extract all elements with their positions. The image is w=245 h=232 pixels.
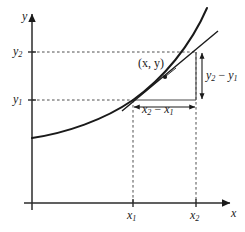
rise-label-trail-sub: 1 <box>234 74 238 83</box>
rise-label-operator: − <box>215 68 228 82</box>
secant-line <box>122 31 218 111</box>
run-label-operator: − <box>151 102 164 116</box>
tick-label-x1-sub: 1 <box>132 214 136 223</box>
run-label: x2 − x1 <box>142 103 174 117</box>
tick-label-x2-sub: 2 <box>195 214 199 223</box>
tick-label-x1: x1 <box>127 209 136 223</box>
tick-label-y1-sub: 1 <box>18 98 22 107</box>
function-curve <box>32 8 207 138</box>
tick-label-x2: x2 <box>190 209 199 223</box>
tick-label-y2: y2 <box>13 45 22 59</box>
point-coordinate-label: (x, y) <box>138 57 164 69</box>
graph-figure: y x y2 y1 x1 x2 (x, y) y2 − y1 x2 − x1 <box>0 0 245 232</box>
graph-canvas <box>0 0 245 232</box>
x-axis-label: x <box>231 207 236 219</box>
y-axis-label: y <box>22 10 27 22</box>
tick-label-y2-sub: 2 <box>18 50 22 59</box>
tick-label-y1: y1 <box>13 93 22 107</box>
rise-label: y2 − y1 <box>206 69 238 83</box>
run-label-trail-sub: 1 <box>170 108 174 117</box>
